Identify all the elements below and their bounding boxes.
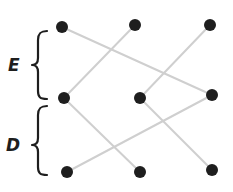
node-m3: [206, 89, 218, 101]
edge-m2-b3: [140, 98, 212, 170]
edge-m3-b1: [67, 95, 212, 172]
edge-m1-b2: [64, 98, 140, 172]
edge-t2-m1: [64, 25, 135, 98]
node-b3: [206, 164, 218, 176]
brace-d: [32, 106, 47, 175]
group-label-d: D: [6, 135, 20, 155]
layered-graph-diagram: E D: [0, 0, 233, 192]
edge-t3-m2: [140, 25, 210, 98]
edge-t1-m3: [62, 27, 212, 95]
node-t2: [129, 19, 141, 31]
node-t1: [56, 21, 68, 33]
node-m1: [58, 92, 70, 104]
node-t3: [204, 19, 216, 31]
brace-e: [32, 31, 47, 99]
group-label-e: E: [8, 55, 20, 75]
node-m2: [134, 92, 146, 104]
node-b1: [61, 166, 73, 178]
node-b2: [134, 166, 146, 178]
